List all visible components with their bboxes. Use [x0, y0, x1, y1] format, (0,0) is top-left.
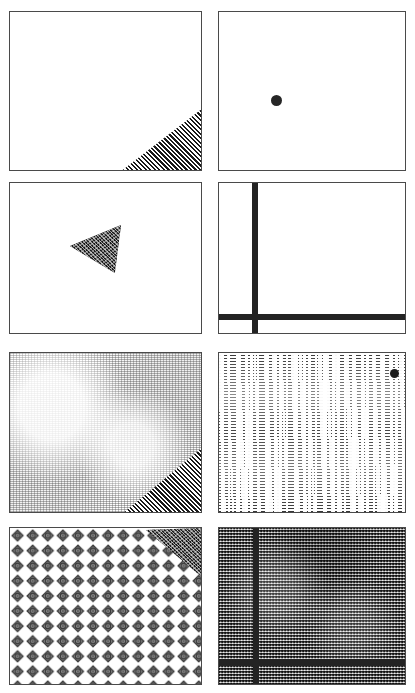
panel-2-background [219, 12, 405, 170]
figure-sheet [0, 0, 415, 693]
panel-4-background [219, 183, 405, 333]
panel-6-light-overlay [219, 353, 405, 512]
panel-5-weave-with-hatched-wedge[interactable] [9, 352, 202, 513]
horizontal-bar [219, 659, 406, 666]
panel-7-lattice-with-wedge[interactable] [9, 527, 202, 685]
panel-2-blank-with-dot[interactable] [218, 11, 406, 171]
panel-6-streaks-with-dot[interactable] [218, 352, 406, 513]
panel-1-blank-with-hatched-wedge[interactable] [9, 11, 202, 171]
solid-dot-marker [390, 369, 399, 378]
panel-4-blank-with-cross-bars[interactable] [218, 182, 406, 334]
solid-dot-marker [271, 95, 282, 106]
panel-3-blank-with-triangle[interactable] [9, 182, 202, 334]
panel-8-grid-with-cross-bars[interactable] [218, 527, 406, 685]
horizontal-bar [219, 314, 406, 320]
vertical-bar [252, 183, 258, 334]
